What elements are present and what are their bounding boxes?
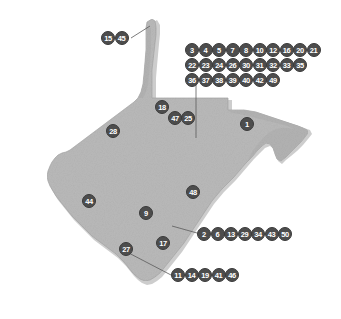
map-marker-36[interactable]: 36 xyxy=(185,73,199,87)
map-marker-38[interactable]: 38 xyxy=(212,73,226,87)
map-marker-50[interactable]: 50 xyxy=(278,227,292,241)
map-marker-26[interactable]: 26 xyxy=(226,58,240,72)
map-marker-2[interactable]: 2 xyxy=(197,227,211,241)
map-marker-31[interactable]: 31 xyxy=(253,58,267,72)
marker-cluster-north-central[interactable]: 3 4 5 7 8 10 12 16 20 21 22 23 24 26 30 … xyxy=(185,43,320,87)
map-marker-6[interactable]: 6 xyxy=(211,227,225,241)
map-marker-39[interactable]: 39 xyxy=(226,73,240,87)
map-marker-41[interactable]: 41 xyxy=(212,268,226,282)
map-marker-7[interactable]: 7 xyxy=(226,43,240,57)
marker-row: 15 45 xyxy=(101,31,128,45)
map-marker-27[interactable]: 27 xyxy=(119,242,133,256)
map-marker-4[interactable]: 4 xyxy=(199,43,213,57)
map-marker-13[interactable]: 13 xyxy=(224,227,238,241)
map-marker-1[interactable]: 1 xyxy=(240,117,254,131)
map-marker-33[interactable]: 33 xyxy=(280,58,294,72)
map-marker-11[interactable]: 11 xyxy=(171,268,185,282)
map-marker-47[interactable]: 47 xyxy=(168,111,182,125)
map-marker-17[interactable]: 17 xyxy=(156,236,170,250)
map-marker-34[interactable]: 34 xyxy=(251,227,265,241)
map-marker-18[interactable]: 18 xyxy=(155,100,169,114)
marker-row-1: 3 4 5 7 8 10 12 16 20 21 xyxy=(185,43,320,57)
map-marker-29[interactable]: 29 xyxy=(238,227,252,241)
map-marker-30[interactable]: 30 xyxy=(239,58,253,72)
map-marker-19[interactable]: 19 xyxy=(198,268,212,282)
marker-row: 2 6 13 29 34 43 50 xyxy=(197,227,292,241)
map-marker-10[interactable]: 10 xyxy=(253,43,267,57)
map-marker-49[interactable]: 49 xyxy=(266,73,280,87)
marker-cluster-northern-panhandle[interactable]: 15 45 xyxy=(101,31,128,45)
map-marker-15[interactable]: 15 xyxy=(101,31,115,45)
map-marker-9[interactable]: 9 xyxy=(139,206,153,220)
map-marker-35[interactable]: 35 xyxy=(293,58,307,72)
map-marker-25[interactable]: 25 xyxy=(181,111,195,125)
map-marker-48[interactable]: 48 xyxy=(186,185,200,199)
map-marker-46[interactable]: 46 xyxy=(225,268,239,282)
marker-row-3: 36 37 38 39 40 42 49 xyxy=(185,73,320,87)
map-marker-21[interactable]: 21 xyxy=(307,43,321,57)
map-marker-45[interactable]: 45 xyxy=(115,31,129,45)
map-marker-8[interactable]: 8 xyxy=(239,43,253,57)
map-marker-24[interactable]: 24 xyxy=(212,58,226,72)
map-marker-16[interactable]: 16 xyxy=(280,43,294,57)
map-marker-43[interactable]: 43 xyxy=(265,227,279,241)
map-marker-14[interactable]: 14 xyxy=(185,268,199,282)
map-marker-32[interactable]: 32 xyxy=(266,58,280,72)
map-marker-40[interactable]: 40 xyxy=(239,73,253,87)
marker-cluster-south[interactable]: 11 14 19 41 46 xyxy=(171,268,239,282)
marker-row: 11 14 19 41 46 xyxy=(171,268,239,282)
map-marker-12[interactable]: 12 xyxy=(266,43,280,57)
map-marker-37[interactable]: 37 xyxy=(199,73,213,87)
map-marker-20[interactable]: 20 xyxy=(293,43,307,57)
marker-row-2: 22 23 24 26 30 31 32 33 35 xyxy=(185,58,320,72)
map-marker-42[interactable]: 42 xyxy=(253,73,267,87)
map-marker-28[interactable]: 28 xyxy=(106,124,120,138)
map-marker-5[interactable]: 5 xyxy=(212,43,226,57)
map-marker-22[interactable]: 22 xyxy=(185,58,199,72)
west-virginia-marker-map: 15 45 3 4 5 7 8 10 12 16 20 21 22 23 24 … xyxy=(0,0,341,319)
map-marker-23[interactable]: 23 xyxy=(199,58,213,72)
map-marker-3[interactable]: 3 xyxy=(185,43,199,57)
marker-cluster-southeast[interactable]: 2 6 13 29 34 43 50 xyxy=(197,227,292,241)
map-marker-44[interactable]: 44 xyxy=(82,194,96,208)
